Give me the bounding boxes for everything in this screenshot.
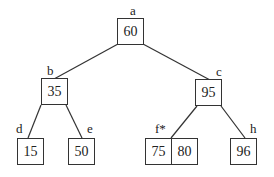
tree-node-f: 7580 <box>145 138 198 165</box>
node-key: 50 <box>69 139 94 164</box>
edge-b-e <box>66 105 82 138</box>
edge-b-d <box>28 105 41 138</box>
node-key: 95 <box>196 80 221 105</box>
node-label-b: b <box>47 64 54 77</box>
tree-node-a: 60 <box>117 18 144 45</box>
node-key: 35 <box>42 79 67 104</box>
node-label-e: e <box>87 122 93 135</box>
tree-node-b: 35 <box>41 78 68 105</box>
node-key: 80 <box>171 139 197 164</box>
node-key: 96 <box>231 139 256 164</box>
node-label-d: d <box>16 122 23 135</box>
edge-a-c <box>143 44 210 80</box>
node-label-h: h <box>250 122 257 135</box>
edge-c-h <box>221 106 245 138</box>
node-label-f: f* <box>155 122 166 135</box>
tree-node-d: 15 <box>17 138 44 165</box>
node-label-a: a <box>130 4 136 17</box>
node-key: 15 <box>18 139 43 164</box>
tree-node-e: 50 <box>68 138 95 165</box>
edge-a-b <box>54 44 118 79</box>
edge-c-f <box>171 106 197 138</box>
tree-node-c: 95 <box>195 79 222 106</box>
tree-node-h: 96 <box>230 138 257 165</box>
node-key: 60 <box>118 19 143 44</box>
node-key: 75 <box>146 139 171 164</box>
node-label-c: c <box>216 65 222 78</box>
